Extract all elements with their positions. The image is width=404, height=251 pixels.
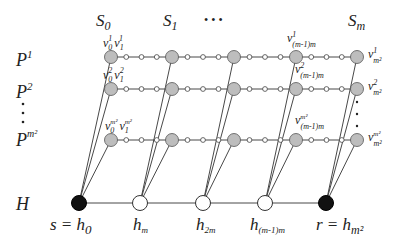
column-header-sm: Sm xyxy=(348,11,366,33)
intermediate-node xyxy=(309,138,314,143)
h-label-hm: hm xyxy=(133,215,149,235)
grid-node xyxy=(228,51,241,64)
intermediate-node xyxy=(124,87,129,92)
intermediate-node xyxy=(154,55,159,60)
intermediate-node xyxy=(185,138,190,143)
intermediate-node xyxy=(154,87,159,92)
intermediate-node xyxy=(309,55,314,60)
grid-node xyxy=(228,83,241,96)
grid-node xyxy=(351,83,364,96)
intermediate-node xyxy=(247,138,252,143)
node-label-v-m1m-2: v2(m-1)m xyxy=(295,61,324,80)
row-label-p1: P1 xyxy=(15,48,33,70)
row-label-pm2: Pm² xyxy=(15,128,38,150)
node-label-v-m2-m2: vm²m² xyxy=(368,130,382,148)
hub-to-grid-edge xyxy=(203,140,234,203)
intermediate-node xyxy=(278,138,283,143)
hub-to-grid-edge xyxy=(326,140,357,203)
hub-node xyxy=(196,196,211,211)
grid-node xyxy=(166,83,179,96)
h-label-h-m1m: h(m-1)m xyxy=(250,215,285,235)
intermediate-node xyxy=(339,55,344,60)
intermediate-node xyxy=(216,138,221,143)
grid-node xyxy=(228,134,241,147)
node-label-v0-2-v1-2: v02v12 xyxy=(103,66,124,84)
intermediate-node xyxy=(247,55,252,60)
grid-node xyxy=(166,134,179,147)
grid-node xyxy=(105,51,118,64)
grid-node xyxy=(290,134,303,147)
hub-node xyxy=(133,196,148,211)
intermediate-node xyxy=(185,55,190,60)
hub-to-grid-edge xyxy=(265,89,296,203)
hub-to-grid-edge xyxy=(203,89,234,203)
grid-node xyxy=(105,83,118,96)
hub-to-grid-edge xyxy=(140,57,172,203)
hub-to-grid-edge xyxy=(326,57,357,203)
intermediate-node xyxy=(339,138,344,143)
intermediate-node xyxy=(201,138,206,143)
right-ellipsis-dot xyxy=(356,125,358,127)
row-label-h: H xyxy=(15,194,30,214)
node-label-v0-m2-v1-m2: v0m²v1m² xyxy=(105,118,133,135)
column-header-s0: S0 xyxy=(96,11,111,33)
grid-node xyxy=(105,134,118,147)
hub-to-grid-edge xyxy=(79,140,111,203)
grid-node xyxy=(351,134,364,147)
intermediate-node xyxy=(247,87,252,92)
hub-to-grid-edge xyxy=(265,140,296,203)
intermediate-node xyxy=(201,87,206,92)
terminal-node xyxy=(72,196,87,211)
h-label-s-h0: s = h0 xyxy=(50,215,92,237)
column-header-s1: S1 xyxy=(163,11,178,33)
intermediate-node xyxy=(216,55,221,60)
hub-to-grid-edge xyxy=(203,57,234,203)
node-label-v-m2-1: v1m² xyxy=(368,46,382,65)
node-label-v0-1-v1-1: v01v11 xyxy=(103,34,124,52)
intermediate-node xyxy=(263,87,268,92)
hub-to-grid-edge xyxy=(140,140,172,203)
row-ellipsis-dot xyxy=(22,112,25,115)
hub-to-grid-edge xyxy=(265,57,296,203)
grid-node xyxy=(166,51,179,64)
node-label-v-m1m-m2: vm²(m-1)m xyxy=(295,113,324,131)
hub-node xyxy=(258,196,273,211)
intermediate-node xyxy=(263,55,268,60)
intermediate-node xyxy=(139,138,144,143)
intermediate-node xyxy=(185,87,190,92)
intermediate-node xyxy=(216,87,221,92)
intermediate-node xyxy=(263,138,268,143)
intermediate-node xyxy=(124,55,129,60)
intermediate-node xyxy=(309,87,314,92)
hub-to-grid-edge xyxy=(326,89,357,203)
intermediate-node xyxy=(154,138,159,143)
row-ellipsis-dot xyxy=(22,121,25,124)
terminal-node xyxy=(319,196,334,211)
hub-to-grid-edge xyxy=(140,89,172,203)
node-label-v-m2-2: v2m² xyxy=(368,78,382,97)
right-ellipsis-dot xyxy=(356,101,358,103)
row-label-p2: P2 xyxy=(15,80,33,102)
column-ellipsis: • • • xyxy=(204,13,223,27)
intermediate-node xyxy=(278,87,283,92)
row-ellipsis-dot xyxy=(22,103,25,106)
node-label-v-m1m-1: v1(m-1)m xyxy=(287,30,316,49)
intermediate-node xyxy=(324,138,329,143)
grid-node xyxy=(351,51,364,64)
grid-nodes xyxy=(105,51,364,147)
intermediate-node xyxy=(278,55,283,60)
h-label-h2m: h2m xyxy=(196,215,216,235)
intermediate-node xyxy=(201,55,206,60)
intermediate-node xyxy=(324,55,329,60)
hub-to-grid-edge xyxy=(79,89,111,203)
intermediate-node xyxy=(139,87,144,92)
h-label-r-hm2: r = hm² xyxy=(316,215,364,237)
intermediate-node xyxy=(339,87,344,92)
intermediate-node xyxy=(124,138,129,143)
intermediate-node xyxy=(324,87,329,92)
intermediate-node xyxy=(139,55,144,60)
grid-graph-diagram: S0 S1 • • • Sm P1 P2 Pm² H v01v11 v1(m-1… xyxy=(0,0,404,251)
right-ellipsis-dot xyxy=(356,113,358,115)
grid-node xyxy=(290,83,303,96)
